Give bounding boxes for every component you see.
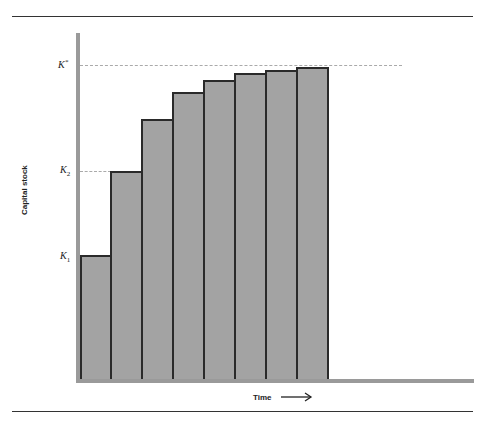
bar-5 [203, 80, 236, 379]
y-axis-label: Capital stock [20, 165, 29, 215]
bar-1 [80, 255, 112, 379]
bar-6 [234, 73, 267, 379]
right-arrow-icon [281, 392, 313, 402]
top-rule [12, 16, 473, 17]
bar-8 [296, 67, 329, 379]
k1-label: K1 [60, 250, 70, 264]
bar-7 [265, 70, 298, 379]
k2-reference-line [80, 171, 111, 172]
k2-label: K2 [60, 164, 70, 178]
bar-2 [110, 171, 143, 379]
y-axis [76, 33, 80, 383]
kstar-reference-line [80, 65, 402, 66]
x-axis [76, 379, 474, 383]
bar-3 [141, 119, 174, 379]
x-axis-label: Time [253, 393, 272, 402]
bar-4 [172, 92, 205, 379]
kstar-label: K* [58, 58, 68, 70]
bottom-rule [12, 411, 473, 412]
